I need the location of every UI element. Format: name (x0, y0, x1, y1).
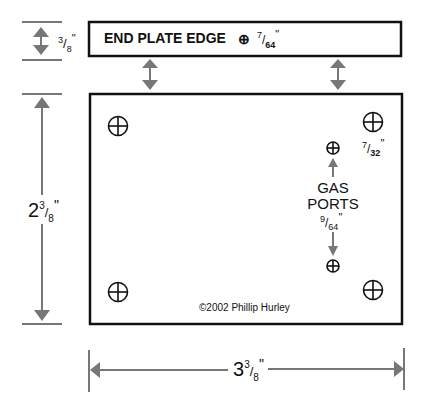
hole-bottom-left-icon (109, 283, 128, 302)
gas-port-top-icon (327, 142, 339, 154)
plate-diagram (0, 0, 432, 407)
gas-ports-label: GAS PORTS (304, 180, 362, 212)
edge-height-label: 3/8" (58, 32, 76, 54)
hole-bottom-right-icon (364, 281, 383, 300)
plate-height-label: 23/8" (28, 197, 59, 224)
copyright-text: ©2002 Phillip Hurley (199, 302, 290, 313)
edge-height-dimension (22, 22, 62, 60)
gas-port-size-label: 9/64" (320, 211, 342, 232)
hole-top-right-icon (364, 113, 383, 132)
gap-arrow-right (330, 59, 346, 90)
plate-width-label: 33/8" (233, 356, 264, 383)
corner-hole-size-label: 7/32" (362, 137, 384, 158)
hole-top-left-icon (109, 117, 128, 136)
gas-port-bottom-icon (327, 260, 339, 272)
end-plate-edge-label: END PLATE EDGE (104, 30, 226, 46)
hole-symbol-icon: ⊕ (238, 31, 250, 47)
end-plate-hole-size: ⊕ 7/64" (238, 28, 279, 50)
gap-arrow-left (142, 59, 158, 90)
